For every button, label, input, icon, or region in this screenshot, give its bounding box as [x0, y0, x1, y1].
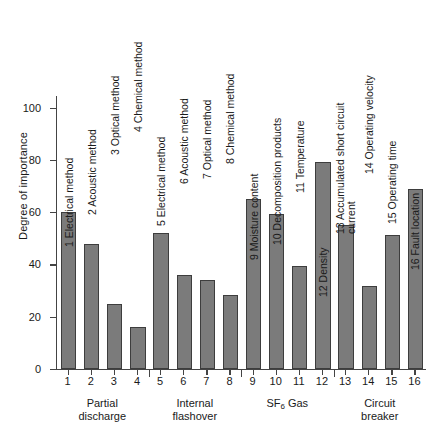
bar-label-14: 14 Operating velocity	[364, 75, 375, 174]
bar-8: 8 Chemical method	[223, 295, 238, 369]
group-label-1: Internal flashover	[172, 397, 217, 423]
bar-14: 14 Operating velocity	[362, 286, 377, 370]
bar-label-1: 1 Electrical method	[63, 157, 74, 246]
x-tick-label-10: 10	[270, 375, 282, 387]
bar-label-6: 6 Acoustic method	[179, 98, 190, 184]
bar-label-8: 8 Chemical method	[225, 74, 236, 164]
x-tick-label-6: 6	[180, 375, 186, 387]
y-tick-label-100: 100	[23, 102, 41, 114]
group-separator-0	[149, 370, 150, 377]
y-tick-20: 20	[50, 317, 56, 318]
bar-15: 15 Operating time	[385, 235, 400, 369]
group-separator-1	[241, 370, 242, 377]
y-axis-title: Degree of importance	[17, 91, 29, 281]
bar-series: 1 Electrical method2 Acoustic method3 Op…	[57, 96, 426, 369]
bar-label-2: 2 Acoustic method	[86, 129, 97, 215]
bar-2: 2 Acoustic method	[84, 244, 99, 369]
x-tick-label-12: 12	[316, 375, 328, 387]
bar-12: 12 Density	[315, 162, 330, 369]
y-tick-100: 100	[50, 108, 56, 109]
bar-label-7: 7 Optical method	[202, 99, 213, 178]
bar-5: 5 Electrical method	[153, 233, 168, 369]
bar-label-3: 3 Optical method	[109, 76, 120, 155]
bar-13: 13 Accumulated short circuit current	[338, 225, 353, 369]
y-tick-0: 0	[50, 369, 56, 370]
y-tick-label-20: 20	[29, 311, 41, 323]
bar-label-9: 9 Moisture content	[248, 173, 259, 259]
group-label-2: SF6 Gas	[266, 397, 308, 413]
bar-9: 9 Moisture content	[246, 199, 261, 369]
x-tick-label-1: 1	[65, 375, 71, 387]
bar-10: 10 Decomposition products	[269, 214, 284, 369]
y-tick-label-60: 60	[29, 206, 41, 218]
group-label-0: Partial discharge	[78, 397, 126, 423]
x-tick-label-4: 4	[134, 375, 140, 387]
group-separator-2	[334, 370, 335, 377]
bar-16: 16 Fault location	[408, 189, 423, 369]
x-tick-label-2: 2	[88, 375, 94, 387]
x-tick-label-7: 7	[203, 375, 209, 387]
bar-label-12: 12 Density	[317, 248, 328, 298]
bar-label-13: 13 Accumulated short circuit current	[335, 102, 357, 233]
x-tick-label-9: 9	[250, 375, 256, 387]
bar-4: 4 Chemical method	[130, 327, 145, 369]
bar-label-4: 4 Chemical method	[132, 41, 143, 131]
y-tick-60: 60	[50, 212, 56, 213]
bar-7: 7 Optical method	[200, 280, 215, 369]
group-label-3: Circuit breaker	[361, 397, 398, 423]
x-tick-label-16: 16	[408, 375, 420, 387]
bar-label-16: 16 Fault location	[410, 193, 421, 270]
x-tick-label-14: 14	[362, 375, 374, 387]
bar-label-11: 11 Temperature	[294, 121, 305, 194]
y-tick-label-80: 80	[29, 154, 41, 166]
bar-label-5: 5 Electrical method	[156, 136, 167, 225]
y-tick-label-0: 0	[35, 363, 41, 375]
y-tick-40: 40	[50, 264, 56, 265]
plot-area: 020406080100 1 Electrical method2 Acoust…	[56, 96, 426, 370]
bar-3: 3 Optical method	[107, 304, 122, 369]
x-tick-label-3: 3	[111, 375, 117, 387]
bar-label-15: 15 Operating time	[387, 141, 398, 224]
bar-chart: Degree of importance 020406080100 1 Elec…	[0, 0, 441, 432]
y-tick-80: 80	[50, 160, 56, 161]
x-tick-label-15: 15	[385, 375, 397, 387]
x-tick-label-13: 13	[339, 375, 351, 387]
bar-6: 6 Acoustic method	[177, 275, 192, 369]
x-tick-label-5: 5	[157, 375, 163, 387]
x-tick-label-11: 11	[293, 375, 304, 387]
bar-11: 11 Temperature	[292, 266, 307, 369]
y-tick-label-40: 40	[29, 258, 41, 270]
x-tick-label-8: 8	[226, 375, 232, 387]
bar-1: 1 Electrical method	[61, 212, 76, 369]
bar-label-10: 10 Decomposition products	[271, 118, 282, 245]
